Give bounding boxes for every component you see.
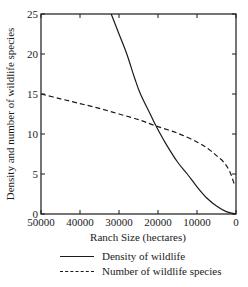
legend-item-species: Number of wildlife species — [60, 264, 221, 279]
dashed-line-swatch-icon — [60, 271, 94, 272]
y-tick-label: 15 — [27, 88, 39, 100]
legend-item-density: Density of wildlife — [60, 249, 221, 264]
species-count-line — [41, 94, 234, 184]
y-tick-label: 10 — [27, 128, 39, 140]
y-tick-label: 0 — [33, 208, 39, 220]
solid-line-swatch-icon — [60, 256, 94, 257]
plot-border — [41, 14, 236, 214]
chart-series — [41, 14, 236, 214]
y-tick-label: 20 — [27, 48, 39, 60]
x-tick-label: 0 — [233, 216, 239, 228]
y-axis-ticks: 0510152025 — [27, 8, 236, 220]
y-axis-title: Density and number of wildlife species — [4, 28, 16, 201]
x-tick-label: 50000 — [27, 216, 55, 228]
legend-label: Density of wildlife — [102, 249, 185, 264]
y-tick-label: 5 — [33, 168, 39, 180]
density-line — [111, 14, 236, 214]
x-axis-ticks: 50000400003000020000100000 — [27, 14, 239, 228]
plot-frame — [41, 14, 236, 214]
x-tick-label: 30000 — [105, 216, 133, 228]
y-tick-label: 25 — [27, 8, 39, 20]
chart-legend: Density of wildlife Number of wildlife s… — [60, 249, 221, 279]
x-tick-label: 40000 — [66, 216, 94, 228]
line-chart: 50000400003000020000100000 0510152025 Ra… — [0, 0, 248, 245]
legend-label: Number of wildlife species — [102, 264, 221, 279]
x-axis-title: Ranch Size (hectares) — [90, 231, 186, 244]
x-tick-label: 20000 — [144, 216, 172, 228]
x-tick-label: 10000 — [183, 216, 211, 228]
